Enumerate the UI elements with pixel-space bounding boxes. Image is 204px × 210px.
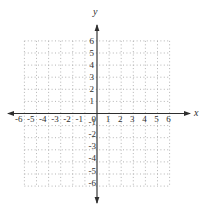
- y-tick-label: 3: [90, 73, 95, 82]
- x-axis-arrow-right-icon: [184, 111, 191, 116]
- y-axis-arrow-top-icon: [95, 24, 100, 31]
- y-axis-letter: y: [93, 7, 97, 17]
- x-axis-arrow-left-icon: [7, 111, 14, 116]
- x-tick-label: 2: [118, 115, 123, 124]
- x-tick-label: -5: [27, 115, 35, 124]
- y-tick-label: -4: [89, 154, 97, 163]
- x-axis-letter: x: [194, 108, 198, 118]
- y-tick-label: 2: [90, 85, 95, 94]
- x-tick-label: -2: [63, 115, 71, 124]
- x-tick-label: -6: [15, 115, 23, 124]
- y-tick-label: -2: [89, 130, 97, 139]
- x-tick-label: 4: [142, 115, 147, 124]
- y-tick-label: 1: [90, 97, 95, 106]
- x-tick-label: -1: [75, 115, 83, 124]
- x-tick-label: 3: [130, 115, 135, 124]
- y-axis-arrow-bottom-icon: [95, 197, 100, 204]
- x-tick-label: 6: [166, 115, 171, 124]
- x-tick-label: -4: [39, 115, 47, 124]
- y-tick-label: 5: [90, 49, 95, 58]
- origin-label: 0: [92, 115, 97, 124]
- x-tick-label: 5: [154, 115, 159, 124]
- x-tick-label: -3: [51, 115, 59, 124]
- y-tick-label: -6: [89, 178, 97, 187]
- y-tick-label: -3: [89, 142, 97, 151]
- plot-svg: [0, 0, 204, 210]
- coordinate-plane-figure: -6-5-4-3-2-1123456-6-5-4-3-2-1123456 x y…: [0, 0, 204, 210]
- y-tick-label: 4: [90, 61, 95, 70]
- x-tick-label: 1: [106, 115, 111, 124]
- y-tick-label: 6: [90, 36, 95, 45]
- y-tick-label: -5: [89, 166, 97, 175]
